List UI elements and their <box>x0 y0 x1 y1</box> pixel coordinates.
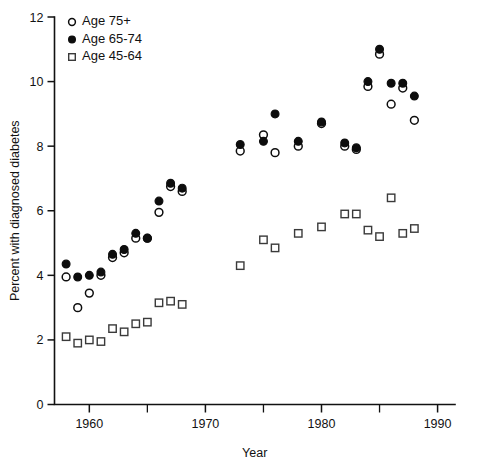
data-point <box>271 244 278 251</box>
y-tick-label: 8 <box>37 140 44 154</box>
data-point <box>120 328 127 335</box>
chart-legend: Age 75+Age 65-74Age 45-64 <box>69 13 142 63</box>
legend-item-age-65-74: Age 65-74 <box>69 31 142 46</box>
data-point <box>155 299 162 306</box>
y-tick-label: 4 <box>37 269 44 283</box>
y-axis-title: Percent with diagnosed diabetes <box>8 120 22 301</box>
y-tick-label: 6 <box>37 204 44 218</box>
x-tick-label: 1970 <box>192 417 220 431</box>
data-point <box>260 236 267 243</box>
data-point <box>155 197 163 205</box>
axis-titles: YearPercent with diagnosed diabetes <box>8 120 267 460</box>
data-point <box>62 333 69 340</box>
x-tick-label: 1960 <box>75 417 103 431</box>
legend-open-square-icon <box>69 54 76 61</box>
data-point <box>411 225 418 232</box>
diabetes-prevalence-scatter-chart: 0246810121960197019801990 Age 75+Age 65-… <box>0 0 483 466</box>
data-point <box>295 230 302 237</box>
data-point <box>364 78 372 86</box>
data-point <box>341 210 348 217</box>
data-point <box>74 339 81 346</box>
data-point <box>109 325 116 332</box>
y-tick-label: 2 <box>37 333 44 347</box>
data-point <box>294 137 302 145</box>
data-point <box>178 301 185 308</box>
legend-label: Age 65-74 <box>82 31 142 46</box>
data-point <box>97 268 105 276</box>
series-age-65-74 <box>62 45 418 280</box>
series-age-45-64 <box>62 194 418 347</box>
data-point <box>260 137 268 145</box>
x-axis-title: Year <box>242 446 267 460</box>
y-tick-label: 0 <box>37 398 44 412</box>
series-age-75 <box>62 50 418 311</box>
data-point <box>387 100 395 108</box>
data-point <box>410 116 418 124</box>
data-point <box>132 229 140 237</box>
data-point <box>352 144 360 152</box>
data-point <box>318 118 326 126</box>
legend-item-age-45-64: Age 45-64 <box>69 48 142 63</box>
data-point <box>86 336 93 343</box>
data-point <box>167 179 175 187</box>
data-point <box>237 262 244 269</box>
data-point <box>178 184 186 192</box>
data-point <box>399 230 406 237</box>
data-point <box>387 194 394 201</box>
data-point <box>74 304 82 312</box>
data-point <box>85 289 93 297</box>
data-point <box>143 234 151 242</box>
legend-filled-circle-icon <box>69 36 76 43</box>
data-point <box>387 79 395 87</box>
x-tick-label: 1980 <box>308 417 336 431</box>
data-point <box>341 139 349 147</box>
data-point <box>62 273 70 281</box>
data-point <box>97 338 104 345</box>
data-point <box>410 92 418 100</box>
data-point <box>364 226 371 233</box>
data-point <box>132 320 139 327</box>
data-point <box>109 250 117 258</box>
axes: 0246810121960197019801990 <box>30 11 455 431</box>
data-point <box>399 79 407 87</box>
data-point <box>120 246 128 254</box>
legend-item-age-75: Age 75+ <box>69 13 131 28</box>
data-point <box>271 110 279 118</box>
x-tick-label: 1990 <box>424 417 452 431</box>
data-point <box>271 149 279 157</box>
data-point <box>353 210 360 217</box>
data-point <box>144 318 151 325</box>
data-point <box>85 271 93 279</box>
axis-spine <box>55 17 456 405</box>
data-point <box>236 141 244 149</box>
chart-canvas: 0246810121960197019801990 Age 75+Age 65-… <box>0 0 483 466</box>
data-point <box>167 297 174 304</box>
data-point <box>155 208 163 216</box>
legend-label: Age 75+ <box>82 13 131 28</box>
data-point <box>376 233 383 240</box>
data-point <box>376 45 384 53</box>
data-point <box>74 273 82 281</box>
y-tick-label: 10 <box>30 75 44 89</box>
data-point <box>318 223 325 230</box>
data-points-layer <box>62 45 418 346</box>
data-point <box>62 260 70 268</box>
y-tick-label: 12 <box>30 11 44 25</box>
legend-label: Age 45-64 <box>82 48 142 63</box>
legend-open-circle-icon <box>69 19 76 26</box>
